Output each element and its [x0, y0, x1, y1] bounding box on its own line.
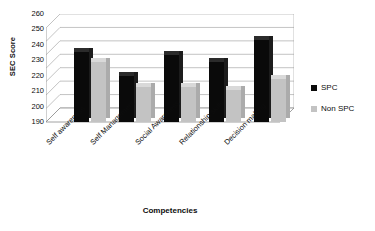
legend-item-non-spc[interactable]: Non SPC	[311, 105, 373, 113]
legend-swatch-spc-icon	[311, 85, 317, 91]
y-tick-label: 210	[22, 87, 44, 95]
y-tick-label: 200	[22, 103, 44, 111]
chart-legend: SPC Non SPC	[311, 84, 373, 126]
y-tick-label: 260	[22, 10, 44, 18]
y-tick-label: 250	[22, 26, 44, 34]
legend-label-non-spc: Non SPC	[321, 105, 354, 113]
y-tick-label: 230	[22, 57, 44, 65]
y-axis-tick-labels: 260 250 240 230 220 210 200 190	[22, 14, 44, 122]
legend-label-spc: SPC	[321, 84, 337, 92]
bar-non-spc-self-awareness[interactable]	[91, 62, 106, 122]
y-tick-label: 220	[22, 72, 44, 80]
bar-non-spc-decision-making[interactable]	[271, 79, 286, 122]
y-tick-label: 240	[22, 41, 44, 49]
bar-chart: SEC Score 260 250 240 230 220 210 200 19…	[0, 0, 375, 231]
legend-item-spc[interactable]: SPC	[311, 84, 373, 92]
bar-non-spc-social-awareness[interactable]	[181, 87, 196, 122]
bar-non-spc-relationship-skills[interactable]	[226, 90, 241, 122]
x-axis-title: Competencies	[46, 206, 294, 215]
legend-swatch-non-spc-icon	[311, 106, 317, 112]
y-axis-title: SEC Score	[8, 27, 17, 87]
y-tick-label: 190	[22, 118, 44, 126]
bar-non-spc-self-management[interactable]	[136, 87, 151, 122]
